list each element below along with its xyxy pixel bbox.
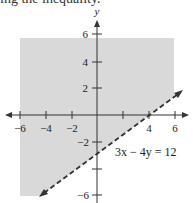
y-axis-label: y — [94, 5, 100, 17]
x-tick-label: −6 — [14, 122, 26, 134]
y-tick-label: 2 — [83, 82, 89, 94]
x-tick-label: −2 — [66, 122, 78, 134]
x-tick-label: 4 — [146, 122, 152, 134]
y-axis-up-arrow-icon — [94, 20, 100, 27]
x-axis-right-arrow-icon — [182, 112, 189, 118]
y-tick-label: −2 — [77, 136, 89, 148]
equation-label: 3x − 4y = 12 — [115, 145, 177, 159]
inequality-graph: −6 −4 −2 4 6 y 6 4 2 −2 −6 3x − 4y = 12 — [0, 0, 193, 203]
y-tick-label: 4 — [83, 56, 89, 68]
y-tick-label: 6 — [83, 28, 89, 40]
x-tick-label: −4 — [40, 122, 52, 134]
y-tick-label: −6 — [77, 189, 89, 201]
x-axis-left-arrow-icon — [5, 112, 12, 118]
x-tick-label: 6 — [172, 122, 178, 134]
